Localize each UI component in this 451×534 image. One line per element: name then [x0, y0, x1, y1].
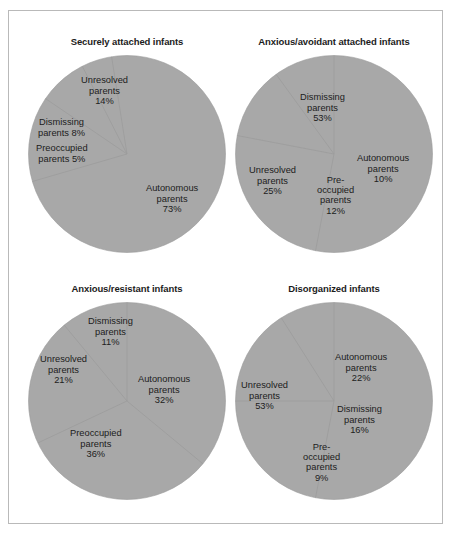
panel-title: Securely attached infants: [18, 36, 236, 47]
pie-panel-anxious-resistant: Anxious/resistant infants Dismissingpare…: [18, 269, 236, 522]
pie-panel-disorganized: Disorganized infants Autonomousparents22…: [225, 269, 443, 522]
pie-chart: [235, 302, 433, 500]
pie-svg: [235, 302, 433, 500]
pie-chart: [28, 302, 226, 500]
panel-title: Anxious/resistant infants: [18, 283, 236, 294]
panel-title: Disorganized infants: [225, 283, 443, 294]
pie-svg: [28, 302, 226, 500]
pie-panel-anxious-avoidant: Anxious/avoidant attached infants Dismis…: [225, 22, 443, 275]
figure-frame: Securely attached infants Unresolvedpare…: [8, 10, 443, 524]
panel-title: Anxious/avoidant attached infants: [225, 36, 443, 47]
pie-chart: [235, 55, 433, 253]
figure-canvas: Securely attached infants Unresolvedpare…: [0, 0, 451, 534]
pie-panel-securely-attached: Securely attached infants Unresolvedpare…: [18, 22, 236, 275]
pie-svg: [235, 55, 433, 253]
pie-chart: [28, 55, 226, 253]
pie-svg: [28, 55, 226, 253]
